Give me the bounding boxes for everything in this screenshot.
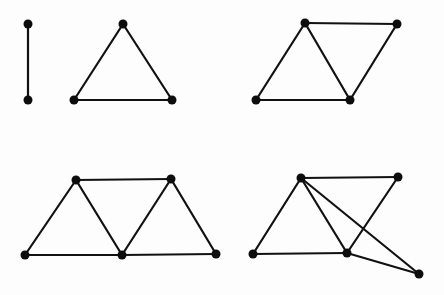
graph-edge: [122, 179, 171, 255]
graph-vertex: [24, 20, 33, 29]
graph-3-rhombus: [252, 19, 402, 105]
graph-4-three-triangle-strip: [21, 175, 221, 260]
graph-vertex: [297, 174, 306, 183]
graph-vertex: [118, 251, 127, 260]
graph-edge: [25, 180, 76, 255]
graph-vertex: [24, 96, 33, 105]
graph-edge: [123, 24, 172, 100]
graph-vertex: [212, 250, 221, 259]
graph-edge: [256, 23, 305, 100]
graph-edge: [350, 24, 397, 100]
graph-edge: [74, 24, 123, 100]
graph-edge: [301, 178, 347, 253]
graph-vertex: [167, 175, 176, 184]
graph-2-triangle: [70, 20, 177, 105]
graph-edge: [253, 253, 347, 254]
graph-edge: [76, 180, 122, 255]
graph-edge: [76, 179, 171, 180]
graph-edge: [301, 177, 398, 178]
graph-vertex: [343, 249, 352, 258]
graph-edge: [347, 253, 419, 274]
graph-1-edge: [24, 20, 33, 105]
graph-vertex: [21, 251, 30, 260]
graph-vertex: [394, 173, 403, 182]
graph-edge: [347, 177, 398, 253]
graph-edge: [253, 178, 301, 254]
graphs-layer: [21, 19, 424, 279]
graph-vertex: [72, 176, 81, 185]
graph-vertex: [346, 96, 355, 105]
graph-diagram-canvas: [0, 0, 444, 295]
graph-edge: [171, 179, 216, 254]
graph-edge: [122, 254, 216, 255]
graph-vertex: [119, 20, 128, 29]
graph-vertex: [301, 19, 310, 28]
graph-vertex: [168, 96, 177, 105]
graph-vertex: [415, 270, 424, 279]
graph-vertex: [393, 20, 402, 29]
graph-edge: [305, 23, 350, 100]
graph-vertex: [252, 96, 261, 105]
graph-edge: [305, 23, 397, 24]
graph-vertex: [70, 96, 79, 105]
graph-edge: [301, 178, 419, 274]
graph-5-rhombus-plus-vertex: [249, 173, 424, 279]
graph-vertex: [249, 250, 258, 259]
